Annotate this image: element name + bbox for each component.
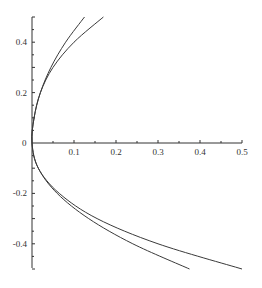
chart: 0.10.20.30.40.5 0.40.2-0.2-0.4 0 bbox=[0, 0, 262, 288]
x-tick-label: 0.2 bbox=[110, 147, 121, 157]
x-tick-label: 0.4 bbox=[194, 147, 206, 157]
x-tick-label: 0.5 bbox=[236, 147, 248, 157]
x-tick-label: 0.3 bbox=[152, 147, 164, 157]
x-tick-label: 0.1 bbox=[68, 147, 79, 157]
y-tick-label: -0.4 bbox=[13, 239, 28, 249]
y-tick-label: -0.2 bbox=[13, 188, 27, 198]
y-tick-label: 0.2 bbox=[16, 88, 27, 98]
y-tick-label: 0.4 bbox=[16, 37, 28, 47]
origin-label: 0 bbox=[22, 138, 27, 148]
